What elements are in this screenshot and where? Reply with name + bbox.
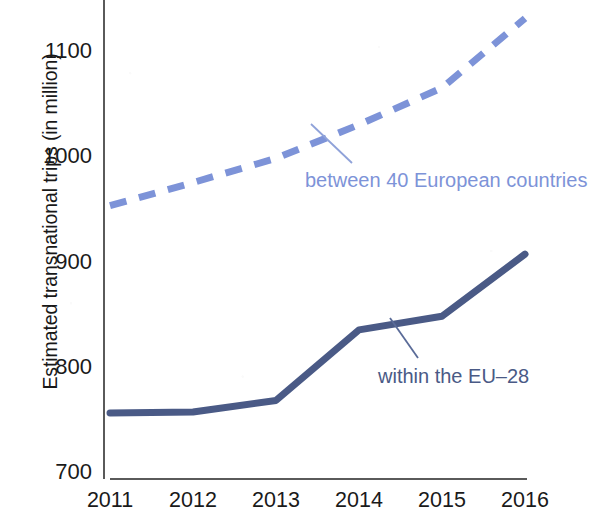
series-line-solid [110,254,525,413]
plot-area [0,0,592,523]
series-annotation-within-the-eu-28: within the EU–28 [378,366,529,386]
series-solid-within-the-eu-28 [110,254,525,413]
series-annotation-between-40-european-countries: between 40 European countries [305,170,587,190]
line-chart: Estimated transnational trips (in millio… [0,0,592,523]
